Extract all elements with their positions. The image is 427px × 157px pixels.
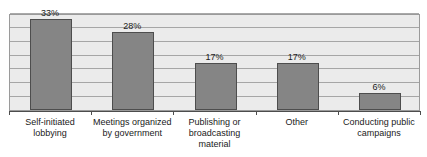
axis-tick: [420, 111, 421, 115]
category-label-line: Other: [256, 117, 338, 128]
bars-layer: [10, 15, 419, 110]
axis-tick: [256, 111, 257, 115]
category-label: Publishing orbroadcastingmaterial: [173, 117, 255, 150]
axis-tick: [9, 111, 10, 115]
bar-value-label: 28%: [107, 21, 157, 31]
category-label-line: Conducting public: [338, 117, 420, 128]
category-label-line: material: [173, 139, 255, 150]
bar[interactable]: [277, 63, 319, 110]
category-label: Self-initiatedlobbying: [9, 117, 91, 139]
bar-value-label: 33%: [25, 8, 75, 18]
bar-chart: 33%28%17%17%6% Self-initiatedlobbyingMee…: [0, 0, 427, 157]
category-label-line: Meetings organized: [91, 117, 173, 128]
axis-tick: [91, 111, 92, 115]
bar[interactable]: [359, 93, 401, 110]
category-label: Conducting publiccampaigns: [338, 117, 420, 139]
category-label-line: by government: [91, 128, 173, 139]
axis-tick: [338, 111, 339, 115]
category-axis-labels: Self-initiatedlobbyingMeetings organized…: [9, 117, 420, 157]
category-label-line: broadcasting: [173, 128, 255, 139]
bar[interactable]: [195, 63, 237, 110]
category-label-line: Self-initiated: [9, 117, 91, 128]
x-axis-line: [9, 111, 420, 112]
bar-value-label: 17%: [190, 52, 240, 62]
bar[interactable]: [112, 32, 154, 110]
category-label: Meetings organizedby government: [91, 117, 173, 139]
bar-value-label: 6%: [354, 82, 404, 92]
category-label-line: campaigns: [338, 128, 420, 139]
axis-tick: [173, 111, 174, 115]
category-label-line: lobbying: [9, 128, 91, 139]
category-label-line: Publishing or: [173, 117, 255, 128]
plot-area: [9, 14, 420, 111]
bar-value-label: 17%: [272, 52, 322, 62]
category-label: Other: [256, 117, 338, 128]
bar[interactable]: [30, 19, 72, 110]
